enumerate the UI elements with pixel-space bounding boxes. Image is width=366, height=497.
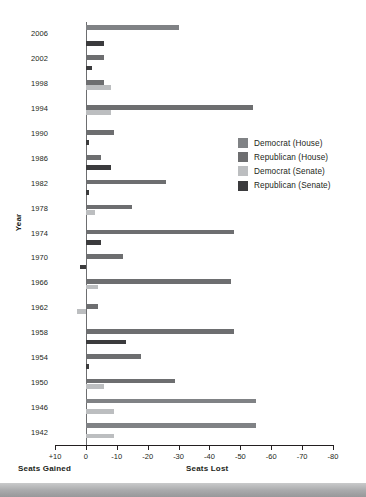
bar-group <box>55 200 333 220</box>
x-axis-tick <box>55 445 56 450</box>
y-axis-tick-label: 1966 <box>0 278 48 287</box>
y-axis-tick-label: 1962 <box>0 303 48 312</box>
legend-label: Republican (House) <box>254 153 328 162</box>
y-axis-tick-label: 2006 <box>0 29 48 38</box>
bar <box>86 384 105 389</box>
y-axis-tick-label: 1970 <box>0 253 48 262</box>
x-axis-tick <box>240 445 241 450</box>
bar-group <box>55 399 333 419</box>
bar-group <box>55 374 333 394</box>
legend-item[interactable]: Democrat (Senate) <box>238 164 366 178</box>
axis-caption-seats-gained: Seats Gained <box>18 464 71 473</box>
y-axis-tick-label: 1998 <box>0 79 48 88</box>
legend-swatch-icon <box>238 152 248 162</box>
y-axis-tick-label: 1954 <box>0 353 48 362</box>
bar <box>86 165 111 170</box>
x-axis-tick <box>333 445 334 450</box>
bar <box>86 230 234 235</box>
bar <box>86 285 98 290</box>
bar <box>86 140 89 145</box>
bar <box>86 25 179 30</box>
bar <box>86 354 142 359</box>
bar <box>86 254 123 259</box>
bar <box>86 379 176 384</box>
legend-label: Democrat (Senate) <box>254 167 325 176</box>
bar-group <box>55 324 333 344</box>
bar <box>86 304 98 309</box>
bar-group <box>55 299 333 319</box>
axis-caption-seats-lost: Seats Lost <box>186 464 228 473</box>
y-axis-tick-label: 2002 <box>0 54 48 63</box>
legend-label: Republican (Senate) <box>254 181 331 190</box>
x-axis-tick <box>271 445 272 450</box>
plot-area <box>55 22 333 445</box>
bar-group <box>55 75 333 95</box>
bar <box>86 399 256 404</box>
bar <box>86 409 114 414</box>
bar <box>86 155 101 160</box>
bar <box>86 180 166 185</box>
bar-group <box>55 25 333 45</box>
y-axis-tick-label: 1990 <box>0 129 48 138</box>
bar <box>86 210 95 215</box>
bar <box>86 66 92 71</box>
bar <box>86 80 105 85</box>
bar-group <box>55 224 333 244</box>
chart-legend: Democrat (House)Republican (House)Democr… <box>238 136 366 193</box>
bar <box>86 205 132 210</box>
bar <box>86 190 89 195</box>
y-axis-tick-label: 1958 <box>0 328 48 337</box>
bar <box>86 105 253 110</box>
y-axis-tick-label: 1974 <box>0 229 48 238</box>
y-axis-title: Year <box>14 193 23 253</box>
legend-item[interactable]: Republican (House) <box>238 150 366 164</box>
bar <box>86 279 231 284</box>
bar <box>80 265 86 270</box>
y-axis-tick-label: 1986 <box>0 154 48 163</box>
bar <box>86 329 234 334</box>
bar-group <box>55 423 333 443</box>
bar <box>86 130 114 135</box>
bar-group <box>55 50 333 70</box>
bar <box>86 110 111 115</box>
y-axis-tick-label: 1994 <box>0 104 48 113</box>
x-axis-tick <box>179 445 180 450</box>
legend-item[interactable]: Democrat (House) <box>238 136 366 150</box>
y-axis-tick-label: 1946 <box>0 403 48 412</box>
bar-group <box>55 100 333 120</box>
legend-swatch-icon <box>238 166 248 176</box>
bar <box>86 340 126 345</box>
legend-label: Democrat (House) <box>254 139 322 148</box>
x-axis-tick <box>86 445 87 450</box>
bar-group <box>55 349 333 369</box>
bar <box>86 55 105 60</box>
bar <box>86 434 114 439</box>
x-axis-tick <box>302 445 303 450</box>
x-axis-tick-label: -80 <box>313 452 353 461</box>
bar <box>86 41 105 46</box>
legend-swatch-icon <box>238 181 248 191</box>
y-axis-tick-label: 1982 <box>0 179 48 188</box>
x-axis-tick <box>209 445 210 450</box>
bar-group <box>55 249 333 269</box>
x-axis-tick <box>148 445 149 450</box>
x-axis-tick <box>117 445 118 450</box>
bar-group <box>55 274 333 294</box>
seats-change-bar-chart: Year 20062002199819941990198619821978197… <box>0 0 366 497</box>
legend-swatch-icon <box>238 138 248 148</box>
bar <box>86 364 89 369</box>
y-axis-tick-label: 1950 <box>0 378 48 387</box>
bar <box>86 423 256 428</box>
x-axis-line <box>55 445 333 446</box>
y-axis-tick-label: 1942 <box>0 428 48 437</box>
legend-item[interactable]: Republican (Senate) <box>238 179 366 193</box>
bar <box>86 240 101 245</box>
y-axis-tick-label: 1978 <box>0 204 48 213</box>
footer-strip <box>0 483 366 497</box>
bar <box>86 85 111 90</box>
bar <box>77 309 86 314</box>
